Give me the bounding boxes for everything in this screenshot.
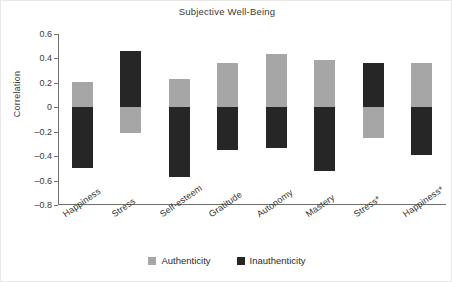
bar-segment-authenticity xyxy=(169,79,190,107)
y-tick-label: –0.2 xyxy=(34,127,52,137)
y-tick-mark xyxy=(54,34,58,35)
y-axis-line xyxy=(58,34,59,205)
bar-segment-inauthenticity xyxy=(72,107,93,168)
y-tick-label: 0 xyxy=(47,102,52,112)
y-tick-label: 0.2 xyxy=(39,78,52,88)
chart-figure: Subjective Well-Being Correlation 0.60.4… xyxy=(0,0,452,282)
y-tick-mark xyxy=(54,181,58,182)
bar-segment-inauthenticity xyxy=(314,107,335,171)
y-tick-mark xyxy=(54,107,58,108)
y-tick-label: –0.8 xyxy=(34,200,52,210)
y-tick-mark xyxy=(54,83,58,84)
bar-segment-inauthenticity xyxy=(217,107,238,150)
y-tick-mark xyxy=(54,205,58,206)
legend-label: Inauthenticity xyxy=(250,255,306,266)
legend-label: Authenticity xyxy=(161,255,210,266)
bar-segment-inauthenticity xyxy=(363,63,384,107)
y-tick-label: –0.4 xyxy=(34,151,52,161)
bar-segment-authenticity xyxy=(72,82,93,108)
chart-legend: AuthenticityInauthenticity xyxy=(1,255,452,266)
bar-stress xyxy=(120,34,141,205)
bar-segment-authenticity xyxy=(314,60,335,108)
y-tick-label: –0.6 xyxy=(34,176,52,186)
bar-autonomy xyxy=(266,34,287,205)
bar-segment-authenticity xyxy=(120,107,141,133)
y-tick-mark xyxy=(54,58,58,59)
bar-gratitude xyxy=(217,34,238,205)
bar-happiness xyxy=(411,34,432,205)
bar-self-esteem xyxy=(169,34,190,205)
y-tick-mark xyxy=(54,156,58,157)
legend-item-inauthenticity[interactable]: Inauthenticity xyxy=(237,255,306,266)
bar-happiness xyxy=(72,34,93,205)
legend-swatch-icon xyxy=(148,257,156,265)
bar-segment-authenticity xyxy=(266,54,287,108)
bar-mastery xyxy=(314,34,335,205)
bar-segment-authenticity xyxy=(411,63,432,107)
bar-segment-inauthenticity xyxy=(266,107,287,147)
bar-segment-inauthenticity xyxy=(411,107,432,155)
y-tick-label: 0.4 xyxy=(39,53,52,63)
x-axis-line xyxy=(58,204,446,205)
bar-segment-inauthenticity xyxy=(120,51,141,107)
bar-segment-authenticity xyxy=(363,107,384,138)
y-tick-label: 0.6 xyxy=(39,29,52,39)
y-tick-mark xyxy=(54,132,58,133)
chart-title: Subjective Well-Being xyxy=(1,6,452,17)
legend-swatch-icon xyxy=(237,257,245,265)
plot-area: 0.60.40.20–0.2–0.4–0.6–0.8 xyxy=(58,34,446,205)
bar-segment-authenticity xyxy=(217,63,238,107)
legend-item-authenticity[interactable]: Authenticity xyxy=(148,255,210,266)
bar-stress xyxy=(363,34,384,205)
y-axis-label: Correlation xyxy=(12,54,22,134)
bar-segment-inauthenticity xyxy=(169,107,190,177)
